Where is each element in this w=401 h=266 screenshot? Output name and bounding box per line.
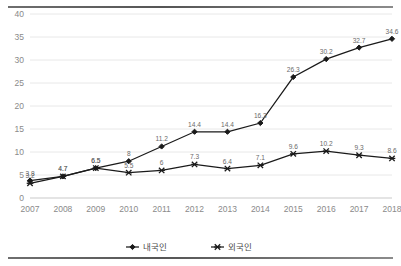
line-chart-plot: 0510152025303540 20072008200920102011201… — [0, 0, 401, 266]
x-axis-tick-label: 2017 — [350, 204, 369, 214]
data-point-label: 9.3 — [355, 144, 364, 151]
data-point-label: 30.2 — [320, 48, 333, 55]
x-axis-tick-label: 2013 — [218, 204, 237, 214]
legend-label: 내국인 — [143, 242, 167, 252]
y-axis-tick-label: 20 — [15, 101, 25, 111]
x-axis-tick-label: 2010 — [119, 204, 138, 214]
data-point-label: 6.5 — [91, 157, 100, 164]
chart-legend: 내국인외국인 — [126, 242, 252, 252]
data-point-marker-diamond — [159, 144, 164, 149]
y-axis-tick-label: 35 — [15, 32, 25, 42]
data-point-label: 32.7 — [353, 37, 366, 44]
data-point-marker-diamond — [130, 244, 135, 249]
data-point-label: 5.5 — [124, 162, 133, 169]
data-point-label: 3.2 — [25, 172, 34, 179]
chart-container: 0510152025303540 20072008200920102011201… — [0, 0, 401, 266]
data-point-label: 26.3 — [287, 66, 300, 73]
data-point-marker-diamond — [324, 56, 329, 61]
x-axis-tick-label: 2016 — [317, 204, 336, 214]
data-point-label: 9.6 — [289, 143, 298, 150]
series-lines-group — [30, 39, 392, 183]
data-point-label: 14.4 — [188, 121, 201, 128]
data-point-label: 6.4 — [223, 158, 232, 165]
data-point-label: 6 — [160, 159, 164, 166]
data-point-label: 8.6 — [387, 147, 396, 154]
data-point-label: 4.7 — [58, 165, 67, 172]
data-point-marker-diamond — [225, 129, 230, 134]
y-axis-tick-label: 40 — [15, 9, 25, 19]
data-point-label: 7.1 — [256, 154, 265, 161]
x-axis-tick-label: 2014 — [251, 204, 270, 214]
y-axis-tick-label: 15 — [15, 124, 25, 134]
x-axis-tick-label: 2011 — [152, 204, 171, 214]
data-point-label: 11.2 — [155, 135, 168, 142]
data-point-marker-diamond — [192, 129, 197, 134]
series-line-2 — [30, 151, 392, 183]
y-axis-tick-label: 5 — [19, 170, 24, 180]
x-axis-tick-label: 2012 — [185, 204, 204, 214]
x-axis-tick-label: 2018 — [383, 204, 401, 214]
data-point-label: 34.6 — [386, 28, 399, 35]
y-axis-tick-label: 0 — [19, 193, 24, 203]
data-point-marker-diamond — [356, 45, 361, 50]
y-axis-tick-label: 10 — [15, 147, 25, 157]
data-point-label: 8 — [127, 150, 131, 157]
y-axis-tick-label: 25 — [15, 78, 25, 88]
data-point-label: 16.3 — [254, 112, 267, 119]
data-labels-group: 3.84.76.5811.214.414.416.326.330.232.734… — [25, 28, 398, 179]
x-axis-tick-label: 2007 — [21, 204, 40, 214]
x-axis-ticks-group: 2007200820092010201120122013201420152016… — [21, 204, 401, 214]
x-axis-tick-label: 2015 — [284, 204, 303, 214]
data-point-label: 7.3 — [190, 153, 199, 160]
legend-label: 외국인 — [228, 242, 252, 252]
data-point-label: 10.2 — [320, 140, 333, 147]
x-axis-tick-label: 2009 — [86, 204, 105, 214]
series-markers-group — [27, 36, 396, 186]
data-point-label: 14.4 — [221, 121, 234, 128]
x-axis-tick-label: 2008 — [53, 204, 72, 214]
y-axis-ticks-group: 0510152025303540 — [15, 9, 25, 203]
y-axis-tick-label: 30 — [15, 55, 25, 65]
